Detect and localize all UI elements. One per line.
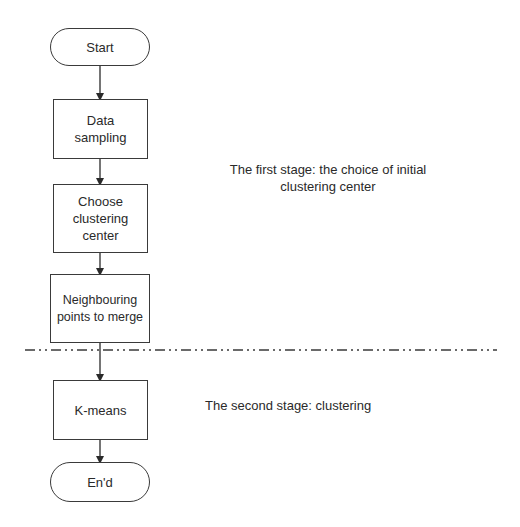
kmeans-label: K-means xyxy=(74,402,126,419)
choose-center-label: Choose clustering center xyxy=(66,193,136,244)
data-sampling-node: Data sampling xyxy=(53,99,148,159)
merge-label: Neighbouring points to merge xyxy=(53,292,147,326)
end-node: En'd xyxy=(50,462,150,502)
second-stage-label: The second stage: clustering xyxy=(205,397,405,414)
connectors-layer xyxy=(0,0,520,527)
choose-center-node: Choose clustering center xyxy=(53,184,148,253)
first-stage-label: The first stage: the choice of initial c… xyxy=(208,161,448,195)
start-node: Start xyxy=(50,28,150,66)
kmeans-node: K-means xyxy=(53,380,148,440)
data-sampling-label: Data sampling xyxy=(66,112,136,146)
end-label: En'd xyxy=(87,474,113,491)
start-label: Start xyxy=(86,39,113,56)
merge-node: Neighbouring points to merge xyxy=(50,274,150,343)
